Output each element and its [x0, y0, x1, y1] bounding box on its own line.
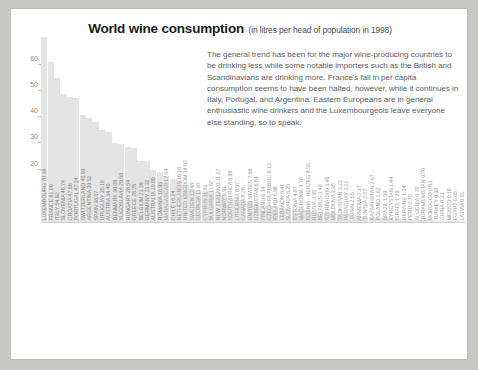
y-axis-tick-label: 40 — [30, 107, 38, 114]
screenshot-root: World wine consumption (in litres per he… — [0, 0, 478, 370]
bar-column: LATVIA 0.01 — [458, 33, 464, 222]
y-axis-tick-label: 50 — [30, 80, 38, 87]
bar: GREECE 28.25 — [131, 148, 137, 222]
y-axis-tick-label: 30 — [30, 133, 38, 140]
bar: IRELAND 5.98 — [272, 206, 278, 222]
chart-card: World wine consumption (in litres per he… — [10, 8, 468, 360]
bar: PORTUGAL 47.34 — [73, 98, 79, 222]
y-axis-tick-label: 20 — [30, 159, 38, 166]
plot-area: 2030405060 LUXEMBOURG 70.36FRANCE 61.09I… — [41, 33, 465, 222]
y-axis-tick-label: 60 — [30, 54, 38, 61]
bar: MACEDONIA 4.78 — [298, 209, 304, 222]
bar: BOSNIA - HERZEG 4.55 — [304, 210, 310, 222]
bar: BELARUS 3.48 — [317, 213, 323, 222]
bar: YUGOSLAVIA 29.58 — [118, 144, 124, 222]
bar: BELGIUM 23.39 — [137, 161, 143, 222]
bar: SLOVENIA 48.74 — [60, 94, 66, 222]
bar-value-label: LATVIA 0.01 — [459, 191, 464, 220]
bar: UZBEKISTAN 6.84 — [253, 204, 259, 222]
bar: BULGARIA 11.67 — [208, 191, 214, 222]
bar: AUSTRIA 34.40 — [105, 132, 111, 222]
bar: JAPAN 2.55 — [349, 215, 355, 222]
bar: SLOVAKIA 5.25 — [285, 208, 291, 222]
bar-series: LUXEMBOURG 70.36FRANCE 61.09ITALY 54.92S… — [41, 33, 465, 222]
bar: GEORGIA 11.87 — [195, 191, 201, 222]
bar: ARGENTINA 39.52 — [86, 118, 92, 222]
bar: CANADA 8.28 — [240, 200, 246, 222]
bar: MOLDOVA 3.35 — [330, 213, 336, 222]
x-axis-baseline — [41, 222, 465, 223]
bar: UNITED KINGDOM 14.02 — [182, 185, 188, 222]
bar: AUSTRALIA 19.89 — [150, 170, 156, 222]
bar: LUXEMBOURG 70.36 — [41, 37, 47, 222]
bar: MADAGASCAR 17.64 — [163, 176, 169, 222]
bar: SOUTH AFRICA 8.98 — [227, 198, 233, 222]
